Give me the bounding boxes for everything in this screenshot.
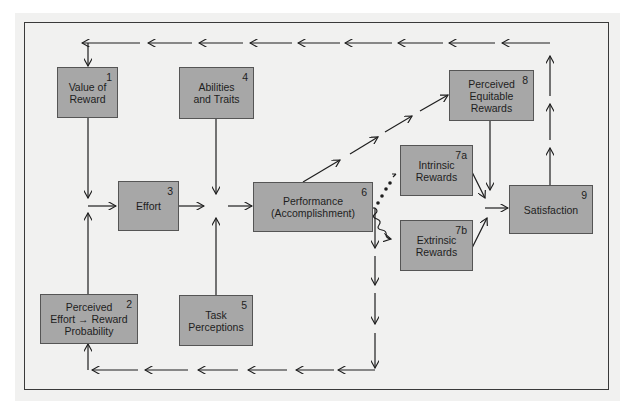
node-intrinsic-rewards: 7a Intrinsic Rewards <box>400 145 473 196</box>
node-label: Extrinsic Rewards <box>416 234 457 258</box>
node-label: Satisfaction <box>524 204 578 216</box>
node-label: Perceived Equitable Rewards <box>468 78 515 114</box>
node-value-of-reward: 1 Value of Reward <box>57 67 118 118</box>
node-number: 2 <box>126 298 132 310</box>
node-performance: 6 Performance (Accomplishment) <box>253 182 373 232</box>
node-effort: 3 Effort <box>118 181 179 231</box>
node-number: 6 <box>361 186 367 198</box>
node-number: 7b <box>455 224 467 236</box>
node-number: 5 <box>241 299 247 311</box>
node-satisfaction: 9 Satisfaction <box>509 185 593 234</box>
node-task-perceptions: 5 Task Perceptions <box>179 295 253 346</box>
node-number: 4 <box>242 71 248 83</box>
node-label: Task Perceptions <box>188 309 243 333</box>
node-number: 3 <box>167 185 173 197</box>
node-label: Effort <box>136 200 161 212</box>
node-label: Intrinsic Rewards <box>416 159 457 183</box>
node-perceived-equitable-rewards: 8 Perceived Equitable Rewards <box>449 70 534 121</box>
node-label: Value of Reward <box>69 81 107 105</box>
node-extrinsic-rewards: 7b Extrinsic Rewards <box>400 220 473 271</box>
node-label: Performance (Accomplishment) <box>271 195 355 219</box>
node-number: 1 <box>106 71 112 83</box>
node-number: 9 <box>581 189 587 201</box>
node-label: Abilities and Traits <box>193 81 239 105</box>
node-label: Perceived Effort → Reward Probability <box>50 301 127 337</box>
node-abilities-and-traits: 4 Abilities and Traits <box>179 67 254 119</box>
node-number: 8 <box>522 74 528 86</box>
node-perceived-effort-reward-probability: 2 Perceived Effort → Reward Probability <box>40 294 138 344</box>
node-number: 7a <box>455 149 467 161</box>
